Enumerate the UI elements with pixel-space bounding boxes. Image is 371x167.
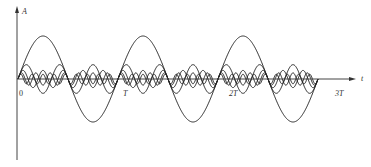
y-axis-arrow-icon [15,6,19,13]
tick-label-3t: 3T [334,89,344,98]
tick-label-t: T [123,89,128,98]
y-axis-label: A [21,7,27,16]
tick-label-2t: 2T [229,89,238,98]
tick-label-0: 0 [19,89,23,98]
x-axis-arrow-icon [349,77,356,81]
x-axis-label: t [361,74,364,83]
fourier-harmonics-chart: A t 0 T 2T 3T [0,0,371,167]
